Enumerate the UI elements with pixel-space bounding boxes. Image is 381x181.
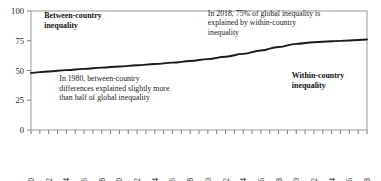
note-2018-line: In 2018, 75% of global inequality is — [208, 9, 320, 18]
x-tick-label: 1986 — [80, 178, 89, 181]
x-tick-label: 2004 — [239, 178, 248, 181]
x-tick-label: 2016 — [345, 178, 354, 181]
between-country-label-line: inequality — [44, 21, 78, 30]
x-tick-label: 2010 — [292, 178, 301, 181]
x-tick-label: 1996 — [168, 178, 177, 181]
x-tick-label: 1982 — [45, 178, 54, 181]
x-tick-label: 2012 — [310, 178, 319, 181]
x-tick-label: 2008 — [275, 178, 284, 181]
x-tick-label: 2018 — [363, 178, 372, 181]
note-1980-line: differences explained slightly more — [59, 84, 170, 93]
x-tick-label: 2002 — [222, 178, 231, 181]
x-tick-label: 1994 — [151, 178, 160, 181]
x-tick-label: 1992 — [133, 178, 142, 181]
inequality-line-chart: 0255075100 19801982198419861988199019921… — [0, 0, 381, 181]
x-tick-label: 1984 — [62, 178, 71, 181]
x-tick-label: 2014 — [328, 178, 337, 181]
within-country-label-line: inequality — [292, 81, 326, 90]
y-tick-label: 25 — [15, 95, 24, 105]
between-country-label-line: Between-country — [44, 11, 101, 20]
chart-container: 0255075100 19801982198419861988199019921… — [0, 0, 381, 181]
within-country-label-line: Within-country — [292, 71, 345, 80]
note-2018-line: inequality — [208, 28, 239, 37]
x-tick-label: 1988 — [98, 178, 107, 181]
x-tick-label: 2000 — [204, 178, 213, 181]
note-1980-line: In 1980, between-country — [59, 74, 139, 83]
x-tick-label: 1990 — [115, 178, 124, 181]
y-tick-label: 50 — [15, 66, 24, 76]
y-tick-label: 75 — [15, 36, 24, 46]
note-2018-line: explained by within-country — [208, 18, 296, 27]
note-1980-line: than half of global inequality — [59, 93, 150, 102]
x-tick-label: 1980 — [27, 178, 36, 181]
x-tick-label: 1998 — [186, 178, 195, 181]
y-tick-label: 100 — [11, 6, 24, 16]
y-tick-label: 0 — [20, 125, 24, 135]
x-tick-label: 2006 — [257, 178, 266, 181]
